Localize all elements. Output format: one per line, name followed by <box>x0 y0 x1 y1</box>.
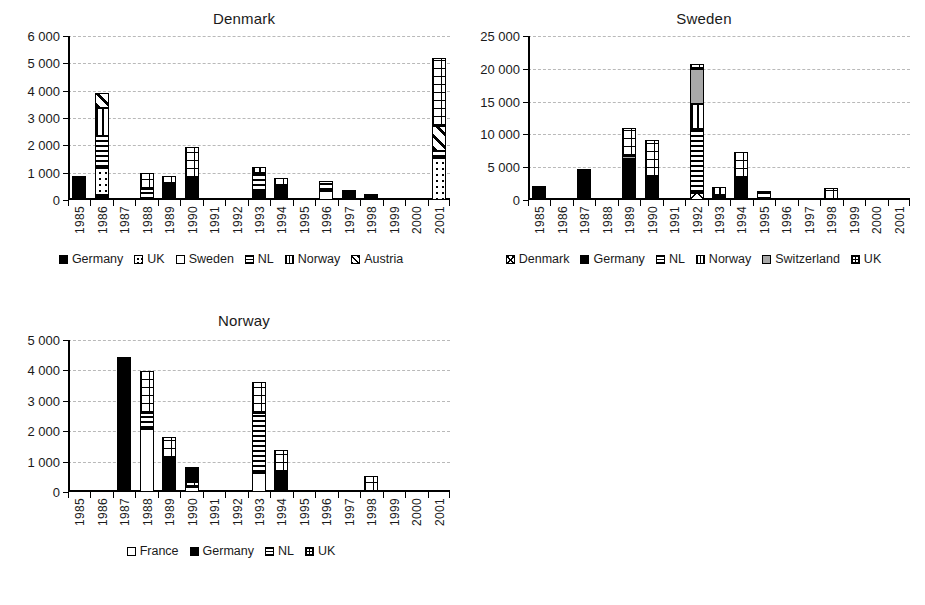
x-tick-mark <box>383 200 384 206</box>
x-axis-tick-label: 1989 <box>163 206 177 234</box>
x-axis-tick-label: 2001 <box>893 206 907 234</box>
x-axis-tick-label: 1992 <box>691 206 705 234</box>
bar-segment <box>95 195 109 200</box>
legend-label: NL <box>669 252 685 266</box>
bar-segment <box>824 188 838 200</box>
x-axis-tick-label: 1994 <box>275 498 289 526</box>
gridline <box>68 91 450 92</box>
bar-segment <box>734 152 748 178</box>
bar-segment <box>364 476 378 492</box>
x-tick-mark <box>775 200 776 206</box>
chart-panel-norway: Norway 01 0002 0003 0004 0005 000 France… <box>0 300 462 595</box>
chart-title-norway: Norway <box>38 312 450 329</box>
y-axis-tick-label: 25 000 <box>464 29 520 44</box>
x-tick-mark <box>685 200 686 206</box>
y-axis-tick-label: 6 000 <box>2 29 60 44</box>
x-axis-tick-label: 1996 <box>780 206 794 234</box>
legend-item: Sweden <box>176 252 234 266</box>
x-axis-tick-label: 1994 <box>735 206 749 234</box>
x-axis-tick-label: 1992 <box>231 498 245 526</box>
x-axis-tick-label: 1996 <box>320 498 334 526</box>
legend-label: Switzerland <box>775 252 840 266</box>
x-axis-tick-label: 1998 <box>365 206 379 234</box>
bar-stack <box>72 176 86 200</box>
chart-legend-denmark: GermanyUKSwedenNLNorwayAustria <box>0 252 462 266</box>
x-tick-mark <box>315 492 316 498</box>
bar-stack <box>95 93 109 200</box>
bar-stack <box>162 437 176 492</box>
x-tick-mark <box>405 492 406 498</box>
bar-segment <box>140 371 154 413</box>
y-axis-tick-label: 1 000 <box>2 454 60 469</box>
legend-swatch-icon <box>190 547 199 556</box>
x-tick-mark <box>909 200 910 206</box>
x-tick-mark <box>640 200 641 206</box>
legend-swatch-icon <box>580 255 589 264</box>
y-axis-tick-label: 0 <box>2 485 60 500</box>
legend-label: UK <box>147 252 164 266</box>
x-axis-tick-label: 1988 <box>141 498 155 526</box>
x-axis-tick-label: 1997 <box>343 206 357 234</box>
bar-segment <box>532 186 546 200</box>
x-tick-mark <box>135 492 136 498</box>
bar-stack <box>342 190 356 200</box>
x-tick-mark <box>248 492 249 498</box>
x-axis-tick-label: 1990 <box>186 206 200 234</box>
y-axis-tick-label: 3 000 <box>2 111 60 126</box>
gridline <box>68 63 450 64</box>
legend-swatch-icon <box>696 255 705 264</box>
legend-label: Norway <box>709 252 751 266</box>
plot-area-norway: 01 0002 0003 0004 0005 000 <box>68 340 450 492</box>
x-axis-tick-label: 1988 <box>141 206 155 234</box>
x-axis-tick-label: 1999 <box>388 498 402 526</box>
legend-item: Switzerland <box>762 252 840 266</box>
legend-swatch-icon <box>506 255 515 264</box>
bar-segment <box>185 467 199 482</box>
bar-segment <box>95 168 109 195</box>
x-tick-mark <box>113 492 114 498</box>
bar-segment <box>690 193 704 200</box>
bar-stack <box>140 371 154 492</box>
x-axis-tick-label: 1986 <box>96 498 110 526</box>
x-axis-tick-label: 1987 <box>118 206 132 234</box>
x-tick-mark <box>360 200 361 206</box>
bar-stack <box>712 187 726 200</box>
legend-swatch-icon <box>265 547 274 556</box>
bar-stack <box>274 178 288 200</box>
bar-segment <box>185 482 199 487</box>
bar-stack <box>532 186 546 200</box>
chart-title-denmark: Denmark <box>38 10 450 27</box>
bar-segment <box>645 177 659 200</box>
y-axis-tick-label: 2 000 <box>2 138 60 153</box>
x-axis-tick-label: 1991 <box>208 206 222 234</box>
chart-legend-sweden: DenmarkGermanyNLNorwaySwitzerlandUK <box>462 252 925 266</box>
legend-label: NL <box>278 544 294 558</box>
legend-swatch-icon <box>127 547 136 556</box>
bar-segment <box>319 181 333 192</box>
bar-segment <box>342 190 356 192</box>
x-tick-mark <box>270 492 271 498</box>
y-axis-tick-label: 4 000 <box>2 83 60 98</box>
bar-segment <box>95 136 109 168</box>
x-tick-mark <box>730 200 731 206</box>
x-tick-mark <box>428 200 429 206</box>
legend-label: France <box>140 544 179 558</box>
x-axis-tick-label: 1995 <box>758 206 772 234</box>
x-axis-tick-label: 1999 <box>388 206 402 234</box>
x-axis-tick-label: 1997 <box>803 206 817 234</box>
legend-item: NL <box>245 252 274 266</box>
legend-item: Germany <box>580 252 644 266</box>
bar-stack <box>140 173 154 200</box>
x-tick-mark <box>293 492 294 498</box>
bar-stack <box>645 140 659 200</box>
bar-stack <box>734 152 748 200</box>
y-axis-tick-label: 0 <box>2 193 60 208</box>
bar-segment <box>432 58 446 126</box>
x-axis-tick-label: 1990 <box>186 498 200 526</box>
y-axis-tick-label: 5 000 <box>2 56 60 71</box>
bar-segment <box>252 173 266 192</box>
legend-swatch-icon <box>851 255 860 264</box>
bar-segment <box>117 357 131 492</box>
x-axis-tick-label: 2001 <box>433 206 447 234</box>
legend-swatch-icon <box>656 255 665 264</box>
